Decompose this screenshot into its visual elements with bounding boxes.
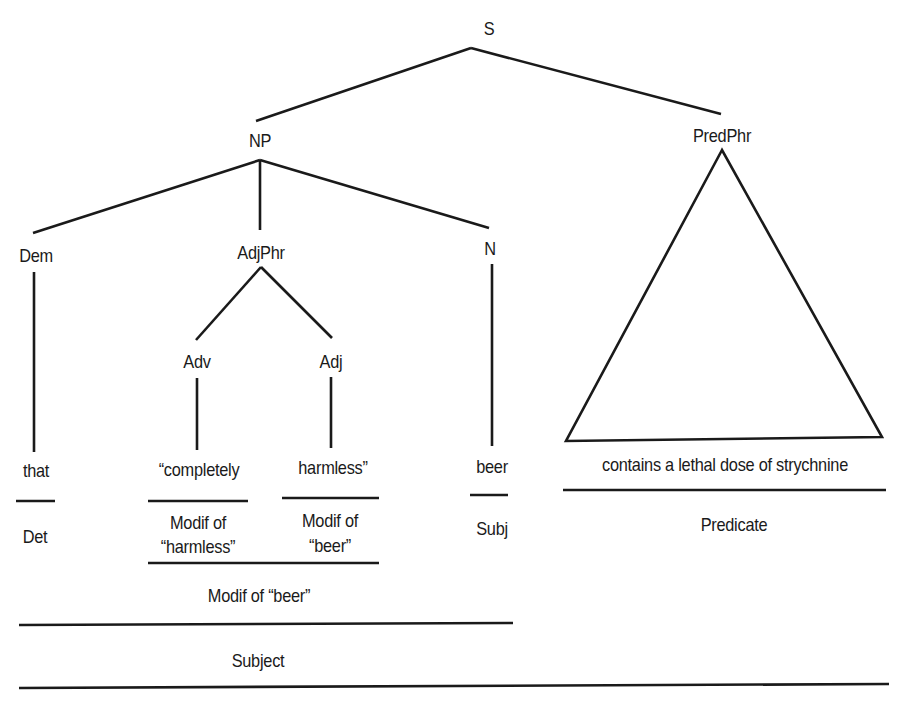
word-completely: “completely	[159, 458, 240, 481]
edge-np-dem	[33, 160, 260, 233]
word-predicate-phrase: contains a lethal dose of strychnine	[602, 453, 848, 476]
node-n: N	[484, 237, 496, 260]
node-adjphr: AdjPhr	[237, 241, 285, 264]
node-predphr: PredPhr	[693, 124, 751, 147]
function-modif-harmless-line1: Modif of	[170, 511, 226, 534]
word-harmless: harmless”	[298, 456, 367, 479]
function-modif-of-beer: Modif of “beer”	[208, 584, 310, 607]
predphr-triangle	[566, 150, 882, 441]
underline-sentence	[19, 684, 889, 688]
function-subject: Subject	[232, 649, 285, 672]
function-det: Det	[23, 525, 48, 548]
function-modif-beer-line2: “beer”	[309, 534, 351, 557]
function-subj: Subj	[476, 517, 508, 540]
function-modif-beer-line1: Modif of	[302, 509, 358, 532]
function-predicate: Predicate	[701, 513, 768, 536]
node-adj: Adj	[320, 350, 343, 373]
underline-np	[19, 623, 513, 625]
edge-s-np	[256, 48, 471, 121]
edge-np-n	[260, 160, 489, 228]
tree-lines	[0, 0, 901, 708]
node-dem: Dem	[19, 244, 53, 267]
node-s: S	[484, 17, 495, 40]
node-adv: Adv	[183, 350, 210, 373]
edge-adjphr-adv	[196, 267, 261, 340]
word-beer: beer	[476, 455, 508, 478]
edge-adjphr-adj	[261, 267, 332, 338]
node-np: NP	[249, 129, 271, 152]
function-modif-harmless-line2: “harmless”	[161, 535, 236, 558]
word-that: that	[23, 459, 49, 482]
edge-s-predphr	[471, 48, 721, 114]
